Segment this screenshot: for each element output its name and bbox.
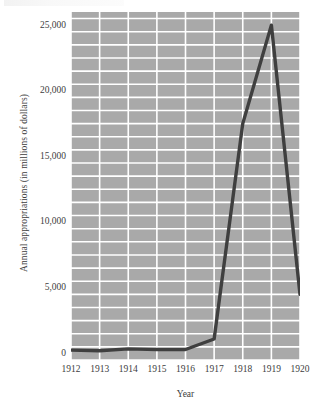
x-axis-title: Year [71,389,300,399]
plot-svg [71,12,300,360]
y-tick-label: 15,000 [6,151,66,161]
y-tick-label: 0 [6,348,66,358]
y-tick-label: 20,000 [6,85,66,95]
plot-area [71,12,300,360]
y-tick-label: 10,000 [6,216,66,226]
x-tick-label: 1920 [280,364,314,374]
x-axis-tick-labels: 191219131914191519161917191819191920 [71,364,300,380]
chart-figure: Annual appropriations (in millions of do… [0,0,314,410]
y-tick-label: 5,000 [6,282,66,292]
y-tick-label: 25,000 [6,20,66,30]
